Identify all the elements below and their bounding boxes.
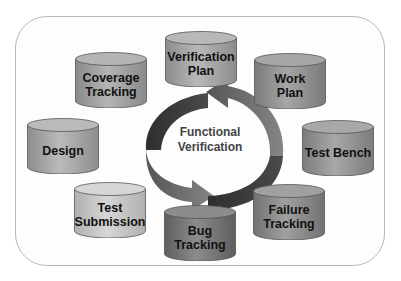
center-label: Functional Verification <box>160 125 260 155</box>
cylinder-label-line2: Tracking <box>253 217 325 231</box>
cylinder-label: CoverageTracking <box>75 71 147 99</box>
cylinder-label-line1: Coverage <box>75 71 147 85</box>
cylinder-bug-tracking: BugTracking <box>164 205 236 261</box>
cylinder-failure-tracking: FailureTracking <box>253 184 325 240</box>
cylinder-coverage-tracking: CoverageTracking <box>75 52 147 108</box>
cylinder-label-line2: Plan <box>254 86 326 100</box>
cylinder-label-line1: Design <box>27 144 99 158</box>
cylinder-label: TestSubmission <box>74 201 146 229</box>
cylinder-label-line2: Plan <box>165 64 237 78</box>
cylinder-label: VerificationPlan <box>165 50 237 78</box>
center-label-line1: Functional <box>160 125 260 140</box>
cylinder-work-plan: WorkPlan <box>254 53 326 109</box>
cylinder-label: FailureTracking <box>253 203 325 231</box>
cylinder-label: BugTracking <box>164 224 236 252</box>
cylinder-label-line2: Tracking <box>75 85 147 99</box>
cylinder-test-submission: TestSubmission <box>74 182 146 238</box>
cylinder-label-line1: Failure <box>253 203 325 217</box>
cylinder-test-bench: Test Bench <box>302 120 374 176</box>
cylinder-label-line1: Work <box>254 72 326 86</box>
cylinder-label-line1: Test <box>74 201 146 215</box>
cylinder-label-line1: Test Bench <box>302 146 374 160</box>
cylinder-label: Test Bench <box>302 146 374 160</box>
center-label-line2: Verification <box>160 140 260 155</box>
cylinder-label: Design <box>27 144 99 158</box>
cylinder-label-line2: Submission <box>74 215 146 229</box>
cylinder-label-line1: Bug <box>164 224 236 238</box>
cylinder-label-line1: Verification <box>165 50 237 64</box>
cylinder-label: WorkPlan <box>254 72 326 100</box>
cylinder-design: Design <box>27 118 99 174</box>
cylinder-verification-plan: VerificationPlan <box>165 31 237 87</box>
cylinder-label-line2: Tracking <box>164 238 236 252</box>
